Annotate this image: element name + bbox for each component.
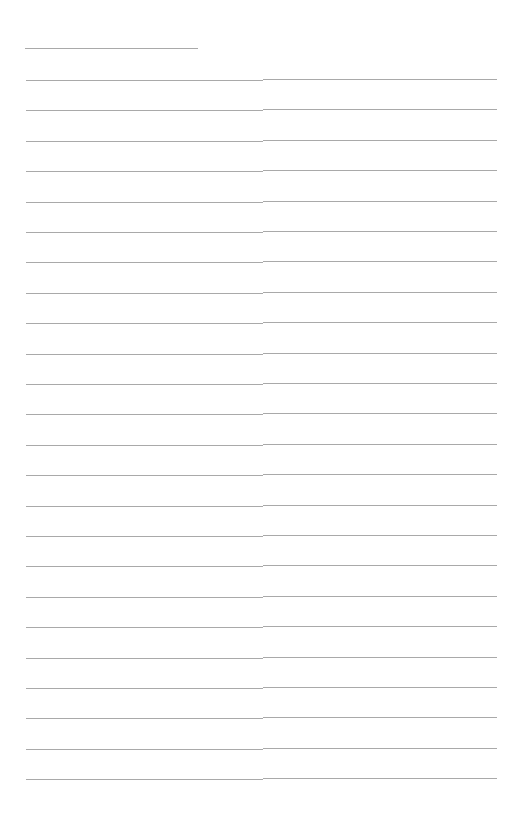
ruled-line-right-segment (263, 413, 497, 414)
ruled-line-right-segment (263, 292, 497, 293)
ruled-line-left-segment (26, 597, 263, 598)
ruled-line-left-segment (26, 749, 263, 750)
ruled-line-left-segment (26, 445, 263, 446)
ruled-line-right-segment (263, 383, 497, 384)
ruled-line-right-segment (263, 140, 497, 141)
ruled-line-right-segment (263, 79, 497, 80)
ruled-line-left-segment (26, 718, 263, 719)
ruled-page (0, 0, 512, 824)
ruled-line-right-segment (263, 748, 497, 749)
ruled-line-left-segment (26, 262, 263, 263)
ruled-line-right-segment (263, 626, 497, 627)
ruled-line-right-segment (263, 535, 497, 536)
ruled-line-left-segment (26, 141, 263, 142)
ruled-line-right-segment (263, 322, 497, 323)
ruled-line-left-segment (26, 627, 263, 628)
ruled-line-left-segment (26, 536, 263, 537)
header-line (25, 48, 198, 49)
ruled-line-right-segment (263, 201, 497, 202)
ruled-line-right-segment (263, 353, 497, 354)
ruled-line-right-segment (263, 261, 497, 262)
ruled-line-right-segment (263, 231, 497, 232)
ruled-line-left-segment (26, 658, 263, 659)
ruled-line-left-segment (26, 232, 263, 233)
ruled-line-left-segment (26, 171, 263, 172)
ruled-line-right-segment (263, 778, 497, 779)
ruled-line-right-segment (263, 109, 497, 110)
ruled-line-left-segment (26, 688, 263, 689)
ruled-line-left-segment (26, 202, 263, 203)
ruled-line-left-segment (26, 566, 263, 567)
ruled-line-right-segment (263, 565, 497, 566)
ruled-line-right-segment (263, 505, 497, 506)
ruled-line-left-segment (26, 80, 263, 81)
ruled-line-left-segment (26, 414, 263, 415)
ruled-line-right-segment (263, 444, 497, 445)
ruled-line-right-segment (263, 687, 497, 688)
ruled-line-right-segment (263, 596, 497, 597)
ruled-line-left-segment (26, 293, 263, 294)
ruled-line-right-segment (263, 474, 497, 475)
ruled-line-left-segment (26, 506, 263, 507)
ruled-line-left-segment (26, 779, 263, 780)
ruled-line-left-segment (26, 323, 263, 324)
ruled-line-right-segment (263, 717, 497, 718)
ruled-line-left-segment (26, 110, 263, 111)
ruled-line-right-segment (263, 170, 497, 171)
ruled-line-left-segment (26, 354, 263, 355)
ruled-line-left-segment (26, 384, 263, 385)
ruled-line-right-segment (263, 657, 497, 658)
ruled-line-left-segment (26, 475, 263, 476)
